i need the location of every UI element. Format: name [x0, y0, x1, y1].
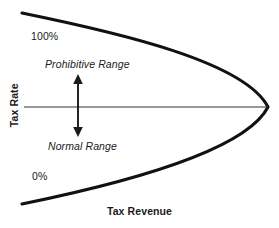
range-divider-arrow	[73, 74, 83, 137]
tick-label-100-percent: 100%	[31, 31, 58, 42]
laffer-curve-diagram: 100% 0% Prohibitive Range Normal Range T…	[0, 0, 279, 228]
tick-label-0-percent: 0%	[32, 171, 47, 182]
y-axis-title: Tax Rate	[9, 75, 20, 135]
normal-range-label: Normal Range	[48, 141, 117, 152]
prohibitive-range-label: Prohibitive Range	[45, 59, 130, 70]
laffer-curve-path	[22, 13, 268, 204]
x-axis-title: Tax Revenue	[0, 206, 279, 217]
